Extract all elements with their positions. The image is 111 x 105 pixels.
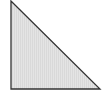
right-triangle (11, 1, 100, 89)
triangle-diagram (0, 0, 111, 105)
